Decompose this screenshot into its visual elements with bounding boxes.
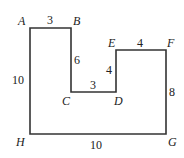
vertex-label-b: B	[73, 14, 81, 28]
length-ab: 3	[47, 13, 53, 27]
figure-outline	[30, 28, 166, 134]
vertex-label-e: E	[107, 36, 116, 50]
length-ef: 4	[137, 36, 143, 50]
rectilinear-figure-diagram: A B C D E F G H 3 6 3 4 4 8 10 10	[0, 0, 184, 158]
length-gh: 10	[90, 138, 102, 152]
length-de: 4	[106, 63, 112, 77]
vertex-label-c: C	[62, 94, 71, 108]
vertex-label-d: D	[113, 94, 123, 108]
vertex-label-g: G	[168, 135, 177, 149]
length-cd: 3	[90, 78, 96, 92]
vertex-label-h: H	[15, 135, 26, 149]
length-bc: 6	[74, 53, 80, 67]
length-fg: 8	[169, 85, 175, 99]
length-ha: 10	[12, 73, 24, 87]
vertex-label-a: A	[17, 14, 26, 28]
vertex-label-f: F	[166, 36, 175, 50]
